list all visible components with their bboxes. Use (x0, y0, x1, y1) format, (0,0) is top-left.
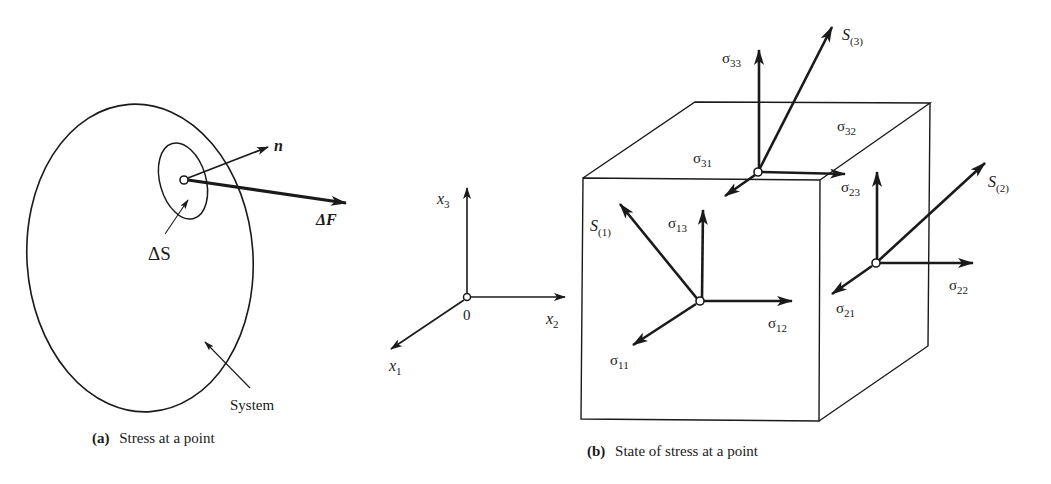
caption-a: (a) Stress at a point (92, 430, 215, 447)
face-2-stresses: S(2) σ23 σ22 σ21 (832, 163, 1009, 319)
sigma31-label: σ31 (693, 150, 712, 169)
face-1-point (696, 297, 704, 305)
sigma33-label: σ33 (722, 50, 742, 69)
system-boundary (17, 96, 264, 419)
x3-label: x3 (436, 190, 450, 210)
face-1-stresses: S(1) σ13 σ12 σ11 (590, 204, 792, 371)
origin-label: 0 (463, 307, 471, 323)
face-3-point (754, 168, 762, 176)
coordinate-axes: x3 x2 x1 0 (388, 188, 565, 377)
s3-label: S(3) (842, 26, 863, 48)
sigma13-arrow (702, 210, 703, 298)
sigma11-arrow (633, 304, 696, 345)
sigma31-arrow (725, 175, 755, 196)
sigma13-label: σ13 (668, 215, 688, 234)
stress-diagram-figure: n ΔF ΔS System (a) Stress at a point x3 … (0, 0, 1051, 484)
s1-label: S(1) (590, 217, 611, 239)
sigma32-label: σ32 (837, 118, 856, 137)
caption-b: (b) State of stress at a point (587, 443, 759, 460)
sigma23-label: σ23 (841, 179, 861, 198)
panel-a: n ΔF ΔS System (a) Stress at a point (17, 96, 346, 447)
x1-label: x1 (388, 357, 402, 377)
sigma32-arrow (762, 172, 845, 174)
s1-traction-arrow (620, 204, 699, 301)
s3-traction-arrow (758, 27, 832, 172)
sigma21-arrow (832, 266, 872, 294)
origin-marker (464, 294, 471, 301)
point-marker (180, 176, 188, 184)
sigma21-label: σ21 (836, 300, 855, 319)
sigma11-label: σ11 (610, 352, 629, 371)
caption-a-tag: (a) (92, 430, 110, 447)
s2-traction-arrow (876, 163, 985, 263)
x1-axis-arrow (391, 300, 464, 349)
normal-label: n (274, 137, 283, 154)
face-3-stresses: S(3) σ33 σ32 σ31 (693, 26, 863, 196)
caption-b-text: State of stress at a point (615, 443, 759, 459)
face-2-point (872, 259, 880, 267)
force-label: ΔF (315, 211, 337, 228)
system-label: System (230, 397, 275, 413)
s2-label: S(2) (988, 173, 1009, 195)
caption-a-text: Stress at a point (119, 430, 215, 446)
caption-b-tag: (b) (587, 443, 605, 460)
x2-label: x2 (545, 310, 559, 330)
sigma22-label: σ22 (949, 277, 968, 296)
area-label: ΔS (148, 243, 171, 264)
sigma12-label: σ12 (768, 315, 787, 334)
force-vector-arrow (188, 180, 346, 203)
